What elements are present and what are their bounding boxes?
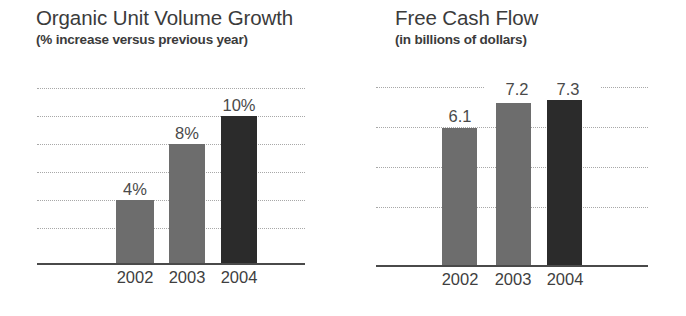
chart-panel-free-cash-flow: Free Cash Flow (in billions of dollars) … bbox=[343, 0, 686, 316]
x-axis-label-2002: 2002 bbox=[430, 270, 490, 289]
bar-2002 bbox=[116, 200, 154, 263]
x-axis-label-2002: 2002 bbox=[105, 268, 165, 287]
x-axis-label-2004: 2004 bbox=[535, 270, 595, 289]
bar-2004 bbox=[221, 116, 257, 263]
bar-value-2003: 8% bbox=[157, 124, 217, 142]
bar-value-2004: 10% bbox=[209, 96, 269, 114]
chart-panel-organic-unit-volume-growth: Organic Unit Volume Growth (% increase v… bbox=[0, 0, 343, 316]
gridline bbox=[37, 88, 305, 89]
x-axis-label-2003: 2003 bbox=[157, 268, 217, 287]
bar-value-2004: 7.3 bbox=[535, 80, 601, 98]
bar-value-2002: 6.1 bbox=[430, 107, 490, 125]
bar-2002 bbox=[442, 128, 477, 265]
x-axis-label-2003: 2003 bbox=[483, 270, 543, 289]
gridline bbox=[37, 116, 305, 117]
x-axis-label-2004: 2004 bbox=[209, 268, 269, 287]
plot-area: 4% 8% 10% 2002 2003 2004 bbox=[0, 0, 343, 316]
bar-2003 bbox=[496, 103, 531, 265]
x-axis-line bbox=[376, 265, 648, 267]
bar-2004 bbox=[547, 100, 582, 265]
bar-2003 bbox=[169, 144, 205, 263]
x-axis-line bbox=[37, 263, 305, 265]
bar-value-2002: 4% bbox=[105, 180, 165, 198]
plot-area: 6.1 7.2 7.3 2002 2003 2004 bbox=[343, 0, 686, 316]
